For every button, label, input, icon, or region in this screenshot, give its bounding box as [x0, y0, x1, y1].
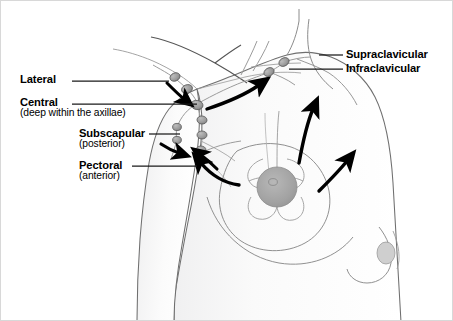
- label-lateral-name: Lateral: [20, 74, 56, 85]
- label-infraclavicular: Infraclavicular: [346, 63, 420, 74]
- node-subscapular-2: [173, 136, 182, 143]
- label-central: Central (deep within the axillae): [20, 97, 126, 119]
- label-infraclavicular-name: Infraclavicular: [346, 63, 420, 74]
- node-subscapular-1: [173, 123, 182, 130]
- label-central-qualifier: (deep within the axillae): [20, 108, 126, 119]
- label-subscapular: Subscapular (posterior): [79, 128, 145, 150]
- label-pectoral: Pectoral (anterior): [79, 160, 122, 182]
- label-lateral: Lateral: [20, 74, 56, 85]
- label-subscapular-qualifier: (posterior): [79, 139, 145, 150]
- lymph-node-diagram: Lateral Central (deep within the axillae…: [0, 0, 453, 321]
- node-central-4: [196, 146, 206, 154]
- node-lateral-1: [169, 71, 182, 83]
- far-nipple: [377, 242, 395, 264]
- label-pectoral-qualifier: (anterior): [79, 171, 122, 182]
- nipple: [257, 167, 297, 207]
- label-supraclavicular-name: Supraclavicular: [346, 49, 428, 60]
- label-supraclavicular: Supraclavicular: [346, 49, 428, 60]
- node-central-3: [197, 131, 207, 139]
